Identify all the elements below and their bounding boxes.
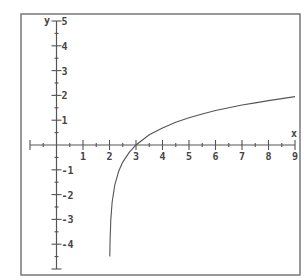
x-tick-label: 1 bbox=[80, 151, 86, 162]
x-axis-label: x bbox=[291, 128, 297, 139]
x-tick-label: 6 bbox=[212, 151, 218, 162]
function-graph: 12345678954321-1-2-3-4 x y bbox=[0, 0, 304, 280]
y-tick-label: -4 bbox=[62, 239, 74, 250]
x-tick-label: 4 bbox=[159, 151, 165, 162]
axis-ticks bbox=[30, 21, 295, 269]
y-tick-label: -2 bbox=[62, 190, 74, 201]
x-tick-label: 8 bbox=[265, 151, 271, 162]
y-tick-label: -1 bbox=[62, 165, 74, 176]
y-tick-label: 2 bbox=[62, 90, 68, 101]
y-axis-label: y bbox=[44, 15, 50, 26]
y-tick-label: 5 bbox=[62, 16, 68, 27]
y-tick-label: 3 bbox=[62, 66, 68, 77]
tick-labels: 12345678954321-1-2-3-4 bbox=[62, 16, 299, 250]
y-tick-label: 4 bbox=[62, 41, 68, 52]
x-tick-label: 7 bbox=[239, 151, 245, 162]
function-curve bbox=[110, 97, 295, 257]
x-tick-label: 3 bbox=[133, 151, 139, 162]
x-tick-label: 5 bbox=[186, 151, 192, 162]
y-tick-label: 1 bbox=[62, 115, 68, 126]
x-tick-label: 9 bbox=[292, 151, 298, 162]
x-tick-label: 2 bbox=[106, 151, 112, 162]
y-tick-label: -3 bbox=[62, 214, 74, 225]
